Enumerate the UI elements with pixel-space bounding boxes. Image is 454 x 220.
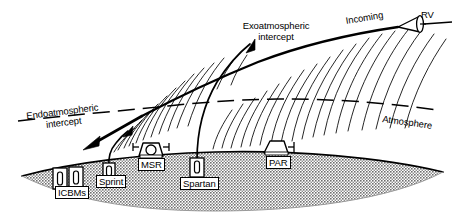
msr-dish-aperture (146, 145, 156, 155)
msr-dome-radar (133, 143, 169, 158)
par-array-face (264, 141, 288, 153)
spartan-launch-silo (190, 158, 204, 177)
bmd-engagement-diagram: RV Incoming Exoatmospheric intercept End… (0, 0, 454, 220)
msr-label: MSR (138, 158, 165, 171)
icbms-label: ICBMs (55, 186, 89, 199)
sprint-track-arrowhead (123, 126, 133, 137)
rv-label: RV (421, 10, 434, 20)
par-base-pad (265, 152, 288, 155)
exoatmospheric-intercept-line2: intercept (225, 31, 327, 42)
exoatmospheric-intercept-line1: Exoatmospheric (225, 20, 327, 31)
par-label: PAR (266, 156, 291, 169)
incoming-track-arrowhead (83, 136, 100, 150)
atmosphere-curved-hatch-lines (114, 30, 446, 152)
icbm-silo-left-tube (58, 172, 63, 185)
sprint-label: Sprint (96, 175, 126, 188)
ground-cross-section (22, 152, 443, 211)
spartan-label: Spartan (180, 177, 219, 190)
spartan-silo-tube (195, 161, 200, 173)
exoatmospheric-intercept-label: Exoatmospheric intercept (225, 20, 327, 42)
icbm-silo-right-tube (74, 171, 79, 184)
